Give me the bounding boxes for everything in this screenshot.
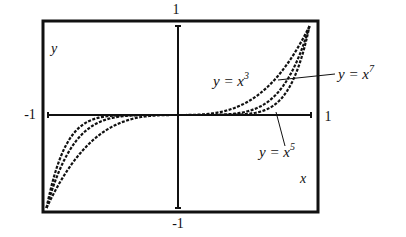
leader-line-x7 — [278, 74, 335, 80]
x-right-label: 1 — [325, 109, 332, 124]
y-top-label: 1 — [173, 2, 180, 17]
y-bottom-label: -1 — [172, 216, 184, 231]
leader-line-x5 — [276, 112, 285, 146]
power-functions-chart: 1 -1 -1 1 y x y = x3 y = x7 y = x5 — [0, 0, 406, 237]
annotation-x5: y = x5 — [257, 141, 295, 160]
annotation-x7: y = x7 — [336, 63, 375, 82]
x-axis-label: x — [299, 171, 307, 186]
y-axis-label: y — [49, 41, 58, 56]
annotation-x3: y = x3 — [211, 70, 249, 89]
x-left-label: -1 — [24, 107, 36, 122]
